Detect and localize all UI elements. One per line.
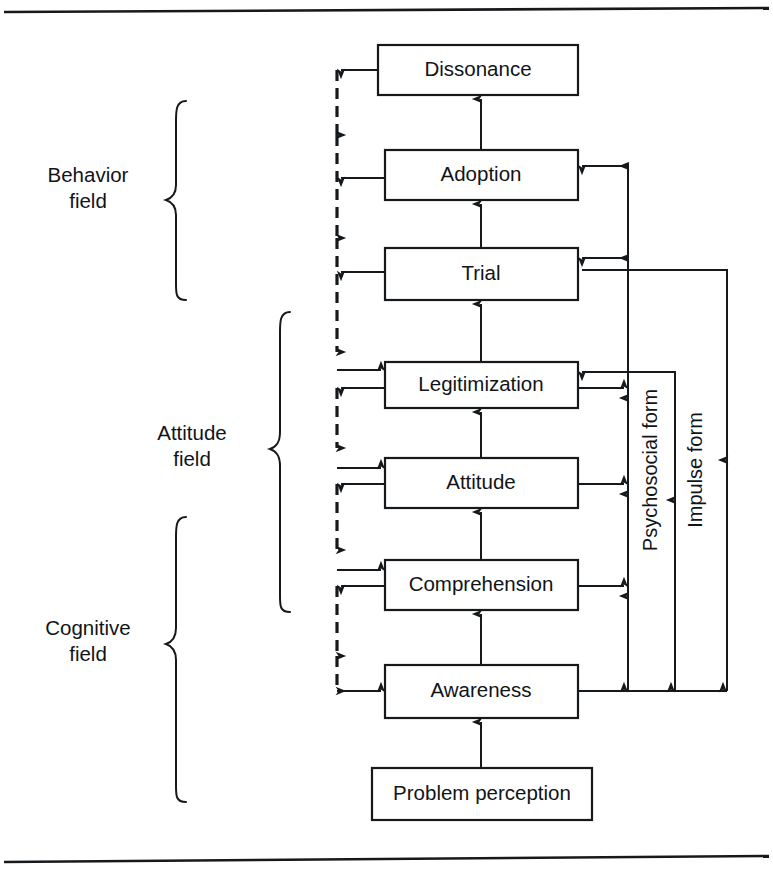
attitude-brace	[270, 312, 290, 612]
node-awareness[interactable]: Awareness	[385, 665, 578, 718]
attitude-field-label-line2: field	[173, 447, 211, 470]
bottom-rule	[4, 856, 769, 862]
psychosocial-rail-label: Psychosocial form	[639, 389, 661, 551]
node-awareness-label: Awareness	[430, 678, 531, 701]
field-bracket-cognitive: Cognitive field	[45, 517, 186, 802]
impulse-rail-label: Impulse form	[684, 412, 706, 528]
field-bracket-behavior: Behavior field	[48, 101, 186, 300]
field-brackets-group: Behavior field Attitude field Cognitive …	[45, 101, 290, 802]
node-problem-perception[interactable]: Problem perception	[372, 768, 592, 820]
cognitive-field-label-line2: field	[69, 642, 107, 665]
top-rule	[4, 8, 769, 12]
behavior-brace	[166, 101, 186, 300]
cognitive-field-label-line1: Cognitive	[45, 616, 130, 639]
node-comprehension[interactable]: Comprehension	[385, 560, 578, 610]
node-trial[interactable]: Trial	[385, 248, 578, 300]
cognitive-brace	[166, 517, 186, 802]
node-comprehension-label: Comprehension	[409, 572, 554, 595]
node-problem-perception-label: Problem perception	[393, 781, 571, 804]
behavior-field-label-line1: Behavior	[48, 163, 129, 186]
node-dissonance-label: Dissonance	[424, 57, 531, 80]
adoption-process-diagram: Behavior field Attitude field Cognitive …	[0, 0, 773, 880]
behavior-field-label-line2: field	[69, 189, 107, 212]
node-trial-label: Trial	[461, 261, 500, 284]
node-attitude-label: Attitude	[446, 470, 516, 493]
node-legitimization-label: Legitimization	[418, 372, 543, 395]
feedback-rail-group	[337, 70, 385, 691]
node-adoption[interactable]: Adoption	[385, 150, 578, 200]
node-dissonance[interactable]: Dissonance	[378, 45, 578, 95]
field-bracket-attitude: Attitude field	[157, 312, 290, 612]
attitude-field-label-line1: Attitude	[157, 421, 227, 444]
node-attitude[interactable]: Attitude	[385, 458, 578, 508]
node-legitimization[interactable]: Legitimization	[385, 362, 578, 408]
node-adoption-label: Adoption	[441, 162, 522, 185]
psychosocial-rail-group: Psychosocial form	[578, 163, 661, 691]
